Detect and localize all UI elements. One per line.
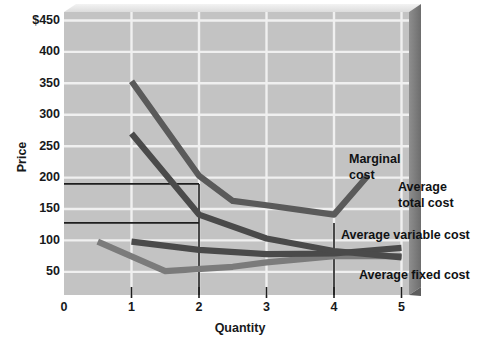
y-tick-400: 400 [12, 45, 60, 58]
plot-top-bevel [64, 4, 421, 12]
series-label-average-fixed-cost: Average fixed cost [359, 268, 470, 283]
y-axis-label: Price [15, 127, 29, 187]
x-tick-3: 3 [252, 300, 282, 314]
x-tick-0: 0 [49, 300, 79, 314]
x-tick-4: 4 [319, 300, 349, 314]
series-label-average-total-cost-line1: Average [398, 180, 447, 195]
y-axis-tick-labels: $450 400 350 300 250 200 150 100 50 [4, 0, 60, 342]
y-tick-450: $450 [12, 14, 60, 27]
x-tick-2: 2 [184, 300, 214, 314]
series-label-average-total-cost-line2: total cost [398, 196, 454, 211]
series-label-average-variable-cost: Average variable cost [341, 228, 470, 243]
y-tick-100: 100 [12, 234, 60, 247]
y-tick-50: 50 [12, 265, 60, 278]
chart-canvas [0, 0, 493, 342]
x-tick-5: 5 [387, 300, 417, 314]
series-label-marginal-cost-line2: cost [349, 168, 375, 183]
cost-curves-chart: $450 400 350 300 250 200 150 100 50 Pric… [0, 0, 493, 342]
y-tick-150: 150 [12, 202, 60, 215]
y-tick-300: 300 [12, 108, 60, 121]
x-axis-label: Quantity [180, 321, 300, 335]
series-label-marginal-cost-line1: Marginal [349, 152, 400, 167]
x-tick-1: 1 [117, 300, 147, 314]
y-tick-350: 350 [12, 77, 60, 90]
plot-side-bevel [409, 4, 421, 295]
